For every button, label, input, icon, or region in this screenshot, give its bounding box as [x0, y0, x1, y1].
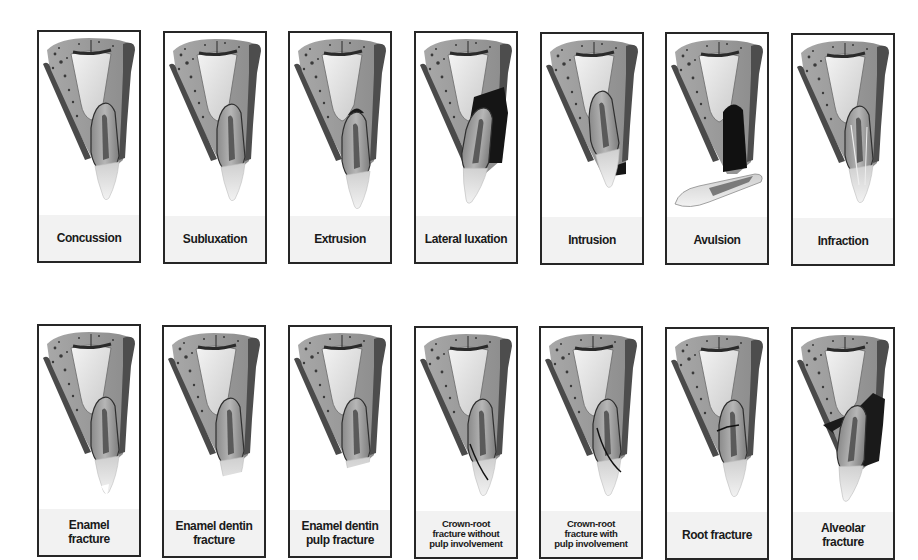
tooth-illustration-root-fracture [667, 329, 767, 514]
panel-label: Alveolarfracture [819, 521, 867, 549]
panel-label: Enamel dentinpulp fracture [300, 519, 381, 547]
panel-enamel-fracture: Enamelfracture [37, 324, 141, 557]
tooth-illustration-avulsion [667, 34, 767, 219]
panel-label: Extrusion [312, 233, 368, 246]
panel-root-fracture: Root fracture [665, 327, 769, 560]
panel-enamel-dentin-pulp-fracture: Enamel dentinpulp fracture [288, 325, 392, 558]
panel-crown-root-fracture-with-pulp: Crown-rootfracture withpulp involvement [539, 326, 643, 559]
panel-label: Crown-rootfracture withoutpulp involveme… [427, 519, 504, 549]
panel-crown-root-fracture-without-pulp: Crown-rootfracture withoutpulp involveme… [414, 326, 518, 559]
panel-label: Crown-rootfracture withpulp involvement [552, 519, 629, 549]
panel-label: Enamel dentinfracture [174, 519, 255, 547]
panel-label: Enamelfracture [66, 518, 111, 546]
panel-infraction: Infraction [791, 33, 895, 266]
panel-label: Concussion [55, 232, 124, 245]
panel-alveolar-fracture: Alveolarfracture [791, 327, 895, 560]
panel-lateral-luxation: Lateral luxation [414, 31, 518, 264]
panel-extrusion: Extrusion [288, 31, 392, 264]
tooth-illustration-enamel-dentin-pulp-fracture [290, 327, 390, 512]
panel-intrusion: Intrusion [540, 32, 644, 265]
panel-label: Intrusion [566, 234, 618, 247]
tooth-illustration-extrusion [290, 33, 390, 218]
panel-label: Subluxation [181, 233, 249, 246]
tooth-illustration-intrusion [542, 34, 642, 219]
tooth-illustration-alveolar-fracture [793, 329, 893, 514]
panel-subluxation: Subluxation [163, 31, 267, 264]
panel-label: Infraction [816, 235, 871, 248]
tooth-illustration-crown-root-without-pulp [416, 328, 516, 513]
panel-label: Lateral luxation [423, 233, 509, 246]
tooth-illustration-subluxation [165, 33, 265, 218]
tooth-illustration-infraction [793, 35, 893, 220]
panel-enamel-dentin-fracture: Enamel dentinfracture [162, 325, 266, 558]
tooth-illustration-enamel-fracture [39, 326, 139, 511]
panel-label: Avulsion [691, 234, 742, 247]
tooth-illustration-crown-root-with-pulp [541, 328, 641, 513]
panel-concussion: Concussion [37, 30, 141, 263]
tooth-illustration-concussion [39, 32, 139, 217]
panel-label: Root fracture [680, 529, 754, 542]
tooth-illustration-enamel-dentin-fracture [164, 327, 264, 512]
tooth-illustration-lateral-luxation [416, 33, 516, 218]
panel-avulsion: Avulsion [665, 32, 769, 265]
